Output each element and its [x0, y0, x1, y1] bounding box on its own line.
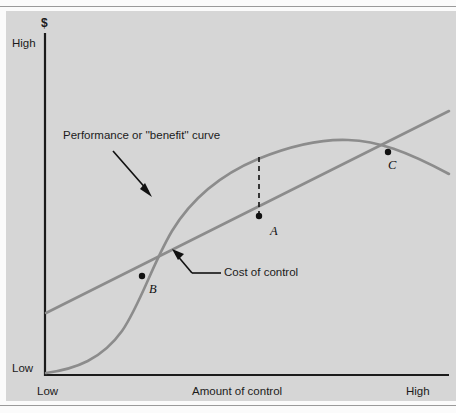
data-point-a — [256, 213, 262, 219]
y-axis-low-label: Low — [12, 363, 33, 375]
data-point-b — [139, 273, 145, 279]
x-axis-title: Amount of control — [192, 386, 282, 398]
benefit-leader-line — [113, 151, 148, 191]
y-axis-high-label: High — [12, 38, 36, 50]
x-axis-low-label: Low — [37, 386, 58, 398]
figure-page: $ High Low Low Amount of control High Pe… — [0, 0, 456, 413]
data-point-label-c: C — [388, 159, 396, 172]
figure-panel: $ High Low Low Amount of control High Pe… — [6, 11, 456, 401]
page-rule-bottom — [0, 405, 456, 406]
x-axis-high-label: High — [406, 386, 430, 398]
data-point-label-a: A — [270, 225, 278, 238]
cost-leader-arrowhead — [172, 249, 184, 260]
data-point-c — [385, 149, 391, 155]
benefit-curve — [46, 140, 449, 373]
page-rule-top — [0, 6, 456, 7]
y-axis-unit-label: $ — [41, 17, 48, 29]
plot-area — [6, 11, 456, 401]
annotation-cost-of-control: Cost of control — [224, 267, 298, 279]
data-point-label-b: B — [149, 283, 157, 296]
annotation-benefit-curve: Performance or ''benefit'' curve — [63, 130, 220, 142]
